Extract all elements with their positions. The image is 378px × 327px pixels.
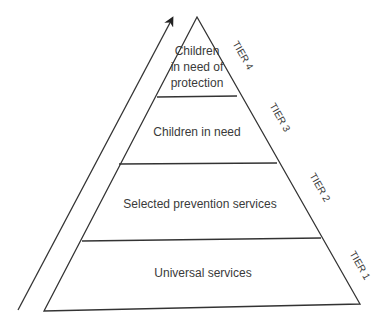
tier-1-marker: TIER 1 xyxy=(347,249,372,282)
divider-tier2-tier1 xyxy=(82,238,321,241)
tier-3-marker: TIER 3 xyxy=(267,101,292,134)
tier-4-label: protection xyxy=(171,76,224,90)
tier-4-label: in need of xyxy=(171,60,224,74)
pyramid-diagram: Children in need of protection Children … xyxy=(0,0,378,327)
upward-arrow-icon xyxy=(18,19,172,310)
tier-3-label: Children in need xyxy=(153,125,240,139)
tier-2-marker: TIER 2 xyxy=(307,171,332,204)
divider-tier3-tier2 xyxy=(119,163,277,164)
divider-tier4-tier3 xyxy=(157,96,237,97)
tier-4-marker: TIER 4 xyxy=(230,39,255,72)
tier-4-label: Children xyxy=(175,44,220,58)
tier-1-label: Universal services xyxy=(154,266,251,280)
tier-2-label: Selected prevention services xyxy=(123,197,276,211)
